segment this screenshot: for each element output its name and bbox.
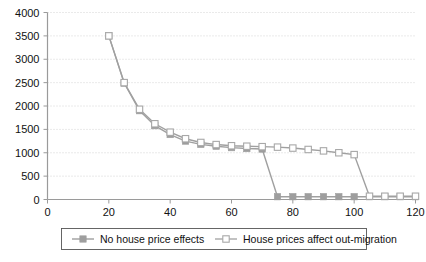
data-point-marker — [336, 194, 342, 200]
series-1 — [106, 33, 419, 200]
y-axis-tick-label: 3000 — [15, 53, 39, 65]
data-point-marker — [136, 106, 142, 112]
data-point-marker — [351, 151, 357, 157]
data-point-marker — [198, 139, 204, 145]
data-point-marker — [274, 194, 280, 200]
chart-legend: No house price effectsHouse prices affec… — [62, 229, 398, 250]
data-point-marker — [351, 194, 357, 200]
data-point-marker — [397, 193, 403, 199]
chart-container: 05001000150020002500300035004000 0204060… — [0, 0, 426, 262]
x-axis-tick-label: 120 — [406, 206, 424, 218]
data-point-marker — [259, 143, 265, 149]
series-line — [109, 36, 416, 196]
data-point-marker — [106, 33, 112, 39]
y-axis-tick-label: 1500 — [15, 123, 39, 135]
y-axis-tick-labels: 05001000150020002500300035004000 — [15, 7, 39, 206]
data-point-marker — [167, 129, 173, 135]
legend-marker — [223, 236, 229, 242]
y-axis-tick-label: 1000 — [15, 147, 39, 159]
data-point-marker — [366, 193, 372, 199]
y-axis-tick-label: 4000 — [15, 7, 39, 19]
legend-label: No house price effects — [100, 233, 204, 245]
legend-marker — [80, 236, 86, 242]
y-axis-tick-label: 3500 — [15, 30, 39, 42]
x-axis-tick-label: 40 — [164, 206, 176, 218]
data-series — [106, 33, 419, 200]
x-axis-tick-labels: 020406080100120 — [44, 206, 424, 218]
legend-label: House prices affect out-migration — [243, 233, 397, 245]
data-point-marker — [290, 145, 296, 151]
data-point-marker — [320, 194, 326, 200]
y-axis-tick-label: 2000 — [15, 100, 39, 112]
x-axis-tick-label: 20 — [103, 206, 115, 218]
data-point-marker — [121, 79, 127, 85]
x-axis-tick-label: 100 — [345, 206, 363, 218]
data-point-marker — [152, 121, 158, 127]
data-point-marker — [213, 141, 219, 147]
legend-item-2[interactable]: House prices affect out-migration — [215, 233, 397, 245]
y-axis-tick-label: 2500 — [15, 77, 39, 89]
series-2 — [106, 33, 419, 200]
data-point-marker — [382, 193, 388, 199]
y-axis-tick-label: 0 — [33, 194, 39, 206]
line-chart: 05001000150020002500300035004000 0204060… — [0, 0, 426, 262]
data-point-marker — [320, 148, 326, 154]
data-point-marker — [274, 144, 280, 150]
y-axis-tick-label: 500 — [21, 170, 39, 182]
data-point-marker — [336, 150, 342, 156]
x-axis-tick-label: 60 — [225, 206, 237, 218]
grid-lines — [48, 13, 416, 177]
chart-axes — [44, 13, 416, 204]
x-axis-tick-label: 80 — [287, 206, 299, 218]
data-point-marker — [244, 143, 250, 149]
data-point-marker — [228, 143, 234, 149]
x-axis-tick-label: 0 — [44, 206, 50, 218]
data-point-marker — [305, 146, 311, 152]
series-line — [109, 36, 416, 197]
data-point-marker — [305, 194, 311, 200]
data-point-marker — [290, 194, 296, 200]
data-point-marker — [412, 193, 418, 199]
data-point-marker — [182, 136, 188, 142]
